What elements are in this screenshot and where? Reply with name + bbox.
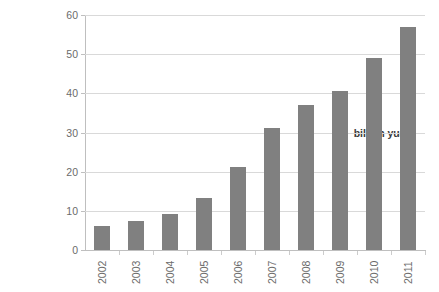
bar: [400, 27, 416, 250]
y-tick-label: 60: [66, 10, 78, 21]
bar: [366, 58, 382, 250]
x-tick-mark: [119, 251, 120, 255]
x-tick-label: 2010: [369, 261, 380, 284]
bar: [196, 198, 212, 250]
y-tick-label: 40: [66, 88, 78, 99]
x-tick-mark: [153, 251, 154, 255]
y-tick-label: 0: [72, 245, 78, 256]
bar-chart-figure: 0102030405060 billion yuan 2002200320042…: [0, 0, 439, 292]
bar: [128, 221, 144, 250]
x-tick-mark: [357, 251, 358, 255]
x-tick-mark: [255, 251, 256, 255]
y-tick-mark: [81, 93, 85, 94]
bar: [298, 105, 314, 250]
x-tick-label: 2009: [335, 261, 346, 284]
y-tick-mark: [81, 211, 85, 212]
x-tick-label: 2002: [97, 261, 108, 284]
y-tick-mark: [81, 133, 85, 134]
x-tick-label: 2011: [403, 261, 414, 284]
x-tick-mark: [391, 251, 392, 255]
y-tick-mark: [81, 54, 85, 55]
x-tick-label: 2004: [165, 261, 176, 284]
x-tick-label: 2003: [131, 261, 142, 284]
x-tick-mark: [187, 251, 188, 255]
plot-area: [85, 15, 425, 250]
y-axis-label-group: 0102030405060: [0, 0, 85, 292]
gridline: [85, 54, 425, 55]
x-tick-label: 2008: [301, 261, 312, 284]
y-tick-label: 20: [66, 167, 78, 178]
y-tick-label: 30: [66, 128, 78, 139]
x-tick-label: 2005: [199, 261, 210, 284]
gridline: [85, 15, 425, 16]
x-tick-mark: [221, 251, 222, 255]
x-tick-mark: [289, 251, 290, 255]
bar: [94, 226, 110, 250]
y-tick-mark: [81, 172, 85, 173]
y-tick-mark: [81, 15, 85, 16]
chart-title-remnant: [330, 0, 435, 3]
x-tick-label: 2007: [267, 261, 278, 284]
bar: [332, 91, 348, 250]
y-tick-label: 50: [66, 49, 78, 60]
x-tick-label: 2006: [233, 261, 244, 284]
y-tick-label: 10: [66, 206, 78, 217]
x-tick-mark: [425, 251, 426, 255]
bar: [162, 214, 178, 250]
bar: [230, 167, 246, 250]
bar: [264, 128, 280, 250]
y-tick-mark: [81, 250, 85, 251]
x-tick-mark: [323, 251, 324, 255]
